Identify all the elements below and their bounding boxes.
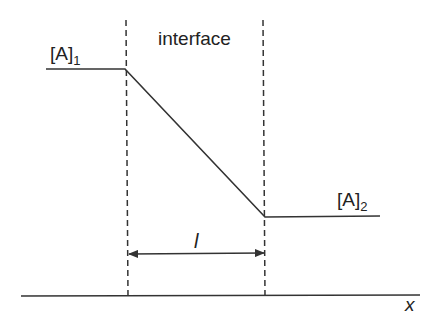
concentration-profile — [46, 69, 380, 217]
thickness-label: l — [194, 230, 199, 252]
x-axis-label: x — [404, 294, 416, 315]
left-concentration-label: [A]1 — [50, 43, 80, 68]
interface-concentration-diagram: interface [A]1 [A]2 l x — [0, 0, 440, 329]
right-concentration-label: [A]2 — [337, 189, 367, 214]
interface-label: interface — [158, 28, 231, 49]
x-axis — [21, 295, 420, 296]
left-interface-boundary — [126, 20, 128, 296]
thickness-arrow — [129, 253, 264, 254]
right-interface-boundary — [263, 20, 265, 296]
